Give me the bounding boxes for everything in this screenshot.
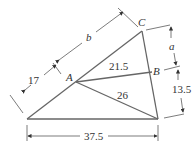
dim-a-bottom [174,53,176,65]
dim-17-b [44,65,56,75]
extension-line [10,95,23,113]
label-13-5: 13.5 [172,83,192,95]
dim-13-5-bottom [181,98,183,112]
label-b-point: B [153,65,160,77]
label-b: b [86,31,92,43]
label-37-5: 37.5 [84,130,104,142]
main-triangle [27,31,158,119]
label-26: 26 [117,89,129,101]
label-17: 17 [28,74,40,86]
extension-line [146,25,170,30]
extension-line [164,66,180,70]
extension-line [53,63,61,74]
label-c: C [138,16,146,28]
label-a-dim: a [169,40,175,52]
dim-b-a [59,43,82,60]
triangle-diagram: C A B 21.5 26 17 b a 13.5 37.5 [0,0,194,145]
extension-line [164,114,184,118]
label-a: A [65,71,73,83]
dim-b-b [96,12,123,32]
label-21-5: 21.5 [109,60,129,72]
extension-line [118,8,138,27]
